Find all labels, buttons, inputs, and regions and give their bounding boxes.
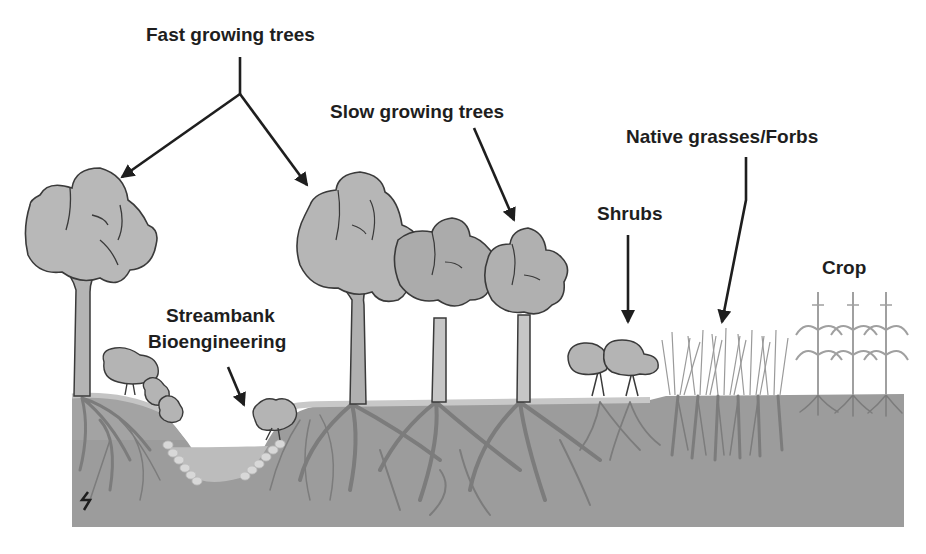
arrow-fast-right: [240, 94, 307, 185]
arrow-slow-trees: [474, 128, 514, 220]
label-crop: Crop: [822, 257, 866, 279]
slow-growing-trees: [297, 172, 568, 404]
riparian-diagram: Fast growing trees Slow growing trees Na…: [0, 0, 926, 554]
label-bioengineering: Bioengineering: [148, 331, 286, 353]
shrubs: [568, 340, 658, 396]
label-shrubs: Shrubs: [597, 203, 662, 225]
label-slow-growing-trees: Slow growing trees: [330, 101, 504, 123]
label-streambank: Streambank: [166, 305, 275, 327]
label-native-grasses: Native grasses/Forbs: [626, 126, 818, 148]
label-fast-growing-trees: Fast growing trees: [146, 24, 315, 46]
arrow-fast-left: [122, 94, 240, 177]
arrow-streambank: [228, 367, 244, 405]
diagram-canvas: [0, 0, 926, 554]
crop-plants: [796, 292, 908, 395]
native-grasses: [662, 328, 788, 395]
arrow-grasses: [722, 157, 746, 322]
